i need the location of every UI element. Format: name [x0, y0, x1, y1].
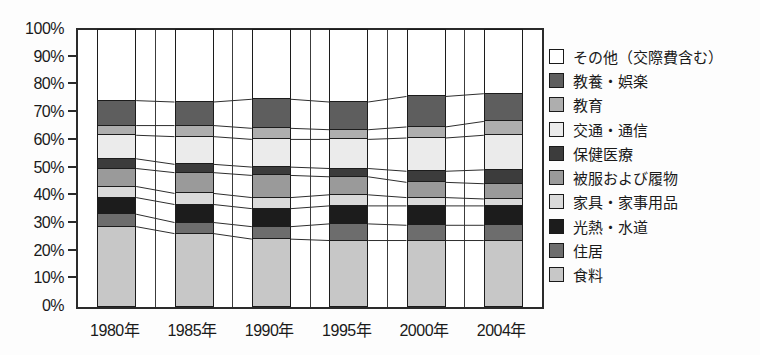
- segment-家具・家事用品: [252, 197, 291, 209]
- y-axis-tick-mark: [68, 82, 76, 84]
- legend-label: 食料: [573, 264, 603, 285]
- legend-label: 住居: [573, 240, 603, 261]
- segment-教養・娯楽: [175, 101, 214, 126]
- segment-光熱・水道: [484, 205, 523, 225]
- stacked-bar-1985年: [175, 30, 214, 307]
- segment-交通・通信: [175, 136, 214, 165]
- x-axis-label: 1995年: [305, 317, 389, 341]
- segment-教養・娯楽: [484, 93, 523, 122]
- segment-食料: [97, 226, 136, 307]
- stacked-bar-2004年: [484, 30, 523, 307]
- stacked-bar-1995年: [329, 30, 368, 307]
- category-separator-line: [155, 30, 156, 307]
- y-axis-tick-mark: [68, 110, 76, 112]
- legend-label: 教育: [573, 94, 603, 115]
- segment-食料: [175, 233, 214, 307]
- segment-食料: [252, 238, 291, 307]
- legend-item: 家具・家事用品: [549, 190, 723, 214]
- legend-swatch-icon: [549, 146, 564, 161]
- segment-住居: [407, 224, 446, 240]
- segment-被服および履物: [175, 172, 214, 194]
- y-axis-tick-label: 0%: [6, 297, 64, 315]
- legend-item: 教育: [549, 93, 723, 117]
- segment-教育: [252, 127, 291, 139]
- legend-swatch-icon: [549, 194, 564, 209]
- stacked-bar-1990年: [252, 30, 291, 307]
- y-axis-tick-label: 30%: [6, 214, 64, 232]
- y-axis-tick-label: 50%: [6, 159, 64, 177]
- x-axis-label: 1980年: [73, 317, 157, 341]
- chart-legend: その他（交際費含む）教養・娯楽教育交通・通信保健医療被服および履物家具・家事用品…: [549, 44, 723, 287]
- segment-被服および履物: [252, 174, 291, 197]
- x-axis-label: 1985年: [150, 317, 234, 341]
- segment-光熱・水道: [97, 197, 136, 215]
- segment-教養・娯楽: [97, 100, 136, 126]
- segment-その他（交際費含む）: [252, 29, 291, 99]
- segment-家具・家事用品: [407, 197, 446, 206]
- segment-食料: [484, 240, 523, 307]
- category-separator-line: [310, 30, 311, 307]
- segment-家具・家事用品: [97, 186, 136, 198]
- y-axis-tick-mark: [68, 55, 76, 57]
- segment-保健医療: [329, 168, 368, 177]
- legend-label: 家具・家事用品: [573, 191, 678, 212]
- y-axis-tick-mark: [68, 166, 76, 168]
- segment-教養・娯楽: [407, 95, 446, 126]
- y-axis-tick-label: 100%: [6, 20, 64, 38]
- x-axis-label: 2000年: [382, 317, 466, 341]
- segment-交通・通信: [252, 138, 291, 167]
- segment-その他（交際費含む）: [329, 29, 368, 102]
- segment-保健医療: [252, 166, 291, 175]
- x-axis-label: 1990年: [227, 317, 311, 341]
- segment-教育: [407, 126, 446, 138]
- legend-label: 交通・通信: [573, 119, 648, 140]
- y-axis-tick-label: 80%: [6, 75, 64, 93]
- segment-住居: [252, 226, 291, 239]
- segment-光熱・水道: [252, 208, 291, 227]
- y-axis-tick-label: 10%: [6, 269, 64, 287]
- segment-その他（交際費含む）: [175, 29, 214, 102]
- legend-swatch-icon: [549, 97, 564, 112]
- y-axis-tick-mark: [68, 221, 76, 223]
- category-separator-line: [464, 30, 465, 307]
- y-axis-tick-mark: [68, 138, 76, 140]
- segment-光熱・水道: [329, 205, 368, 224]
- stacked-bar-2000年: [407, 30, 446, 307]
- legend-item: 被服および履物: [549, 165, 723, 189]
- segment-光熱・水道: [175, 204, 214, 223]
- legend-item: その他（交際費含む）: [549, 44, 723, 68]
- y-axis-tick-mark: [68, 276, 76, 278]
- segment-住居: [329, 223, 368, 241]
- segment-住居: [175, 222, 214, 234]
- legend-label: 被服および履物: [573, 167, 678, 188]
- legend-swatch-icon: [549, 267, 564, 282]
- segment-教育: [97, 125, 136, 136]
- segment-教育: [329, 129, 368, 140]
- segment-保健医療: [97, 158, 136, 169]
- category-separator-line: [387, 30, 388, 307]
- legend-swatch-icon: [549, 219, 564, 234]
- legend-swatch-icon: [549, 243, 564, 258]
- segment-教育: [484, 120, 523, 135]
- segment-保健医療: [484, 169, 523, 184]
- legend-swatch-icon: [549, 73, 564, 88]
- segment-家具・家事用品: [329, 194, 368, 206]
- segment-その他（交際費含む）: [407, 29, 446, 96]
- segment-保健医療: [175, 163, 214, 172]
- segment-その他（交際費含む）: [484, 29, 523, 94]
- legend-item: 食料: [549, 263, 723, 287]
- y-axis-tick-label: 40%: [6, 186, 64, 204]
- segment-住居: [484, 224, 523, 240]
- legend-swatch-icon: [549, 170, 564, 185]
- legend-label: 光熱・水道: [573, 216, 648, 237]
- legend-label: 教養・娯楽: [573, 70, 648, 91]
- segment-食料: [329, 240, 368, 307]
- x-axis-label: 2004年: [459, 317, 543, 341]
- legend-item: 住居: [549, 238, 723, 262]
- segment-家具・家事用品: [175, 192, 214, 204]
- segment-交通・通信: [407, 137, 446, 171]
- segment-住居: [97, 213, 136, 226]
- plot-area: [76, 28, 544, 309]
- legend-item: 教養・娯楽: [549, 68, 723, 92]
- y-axis-tick-label: 70%: [6, 103, 64, 121]
